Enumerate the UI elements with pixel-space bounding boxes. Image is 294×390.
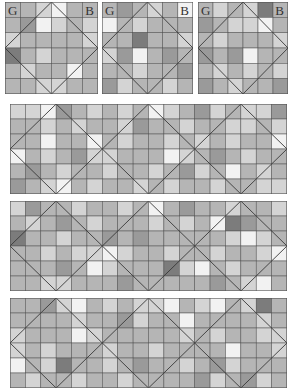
grid-cell [102, 313, 117, 328]
grid-cell [210, 298, 225, 313]
grid-cell [102, 276, 117, 291]
grid-cell [72, 343, 87, 358]
grid-cell [41, 149, 56, 164]
grid-cell [195, 261, 210, 276]
grid-cell [210, 104, 225, 119]
grid-cell [133, 149, 148, 164]
grid-cell [225, 246, 240, 261]
grid-cell [25, 231, 40, 246]
grid-cell [149, 343, 164, 358]
grid-cell [195, 373, 210, 388]
grid-cell [41, 231, 56, 246]
grid-cell [241, 164, 256, 179]
grid-cell [83, 79, 99, 94]
grid-cell [56, 119, 71, 134]
grid-cell [273, 17, 288, 32]
grid-cell [25, 246, 40, 261]
grid-cell [52, 17, 68, 32]
grid-cell [118, 201, 133, 216]
grid-cell [195, 164, 210, 179]
grid-cell [272, 216, 287, 231]
grid-cell [272, 261, 287, 276]
grid-cell [241, 216, 256, 231]
grid-cell [241, 261, 256, 276]
grid-cell [164, 343, 179, 358]
grid-cell [241, 231, 256, 246]
grid-cell [118, 276, 133, 291]
grid-cell [178, 17, 193, 32]
grid-cell [118, 328, 133, 343]
grid-cell [102, 358, 117, 373]
grid-cell [179, 201, 194, 216]
grid-cell [52, 63, 68, 78]
grid-cell [102, 104, 117, 119]
grid-cell [87, 119, 102, 134]
grid-cell [52, 33, 68, 48]
small-panel-2: GB [102, 2, 193, 94]
grid-cell [243, 33, 258, 48]
grid-cell [10, 201, 25, 216]
grid-cell [256, 134, 271, 149]
grid-cell [256, 149, 271, 164]
grid-cell [102, 179, 117, 194]
grid-cell [179, 179, 194, 194]
grid-cell [149, 246, 164, 261]
grid-cell [256, 298, 271, 313]
grid-cell [87, 216, 102, 231]
grid-cell [149, 328, 164, 343]
grid-cell [118, 298, 133, 313]
grid-cell [272, 119, 287, 134]
grid-cell [56, 328, 71, 343]
grid-cell [132, 48, 147, 63]
grid-cell [25, 201, 40, 216]
grid-cell [5, 17, 21, 32]
grid-cell [258, 2, 273, 17]
grid-cell [133, 261, 148, 276]
grid-cell [87, 373, 102, 388]
grid-cell [56, 246, 71, 261]
grid-cell [10, 313, 25, 328]
grid-cell [225, 149, 240, 164]
grid-cell [25, 343, 40, 358]
grid-cell [102, 373, 117, 388]
grid-cell [83, 63, 99, 78]
grid-cell [195, 358, 210, 373]
label-g: G [201, 3, 210, 19]
grid-cell [21, 48, 37, 63]
grid-cell [164, 201, 179, 216]
label-b: B [85, 3, 94, 19]
grid-cell [179, 104, 194, 119]
grid-cell [241, 119, 256, 134]
grid-cell [117, 2, 132, 17]
grid-cell [41, 119, 56, 134]
grid-cell [36, 48, 52, 63]
grid-cell [210, 276, 225, 291]
grid-cell [228, 17, 243, 32]
grid-cell [241, 328, 256, 343]
grid-cell [133, 313, 148, 328]
label-g: G [105, 3, 114, 19]
grid-cell [102, 261, 117, 276]
grid-cell [118, 149, 133, 164]
grid-cell [164, 231, 179, 246]
grid-cell [198, 17, 213, 32]
grid-cell [164, 179, 179, 194]
grid-cell [132, 63, 147, 78]
grid-cell [225, 328, 240, 343]
label-b: B [275, 3, 284, 19]
grid-cell [241, 149, 256, 164]
grid-cell [56, 261, 71, 276]
grid-cell [56, 149, 71, 164]
grid-cell [272, 298, 287, 313]
grid-cell [213, 2, 228, 17]
grid-cell [87, 358, 102, 373]
grid-cell [5, 79, 21, 94]
grid-cell [256, 373, 271, 388]
grid-cell [210, 201, 225, 216]
grid-cell [36, 33, 52, 48]
wide-panel-1 [10, 104, 287, 194]
grid-cell [117, 79, 132, 94]
grid-cell [272, 104, 287, 119]
grid-cell [256, 343, 271, 358]
grid-cell [272, 373, 287, 388]
